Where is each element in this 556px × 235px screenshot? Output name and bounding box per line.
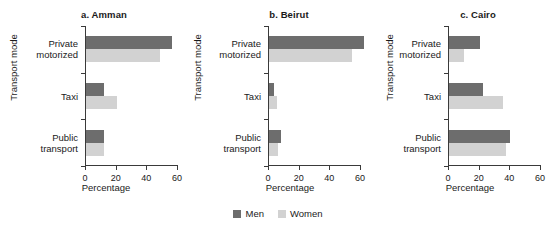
x-axis-tick — [268, 166, 269, 170]
bar-private-motorized-women — [269, 49, 352, 62]
y-axis-tick — [444, 26, 448, 27]
plot-area-beirut: 0204060PrivatemotorizedTaxiPublictranspo… — [268, 26, 360, 166]
x-axis-line — [85, 165, 178, 166]
x-axis-tick — [116, 166, 117, 170]
y-axis-tick — [264, 119, 268, 120]
y-axis-label-beirut: Transport mode — [192, 13, 203, 123]
x-axis-tick — [85, 166, 86, 170]
bar-taxi-women — [86, 96, 117, 109]
y-axis-category-label: Taxi — [61, 91, 78, 102]
bar-taxi-men — [269, 83, 274, 96]
x-axis-line — [448, 165, 541, 166]
y-axis-tick — [444, 119, 448, 120]
legend-label: Women — [290, 208, 323, 219]
bar-public-transport-women — [86, 143, 104, 156]
bar-public-transport-women — [449, 143, 506, 156]
legend-item-men: Men — [233, 208, 263, 219]
x-axis-tick — [479, 166, 480, 170]
y-axis-category-label: Taxi — [424, 91, 441, 102]
bar-taxi-women — [269, 96, 277, 109]
y-axis-category-label: Publictransport — [224, 132, 262, 154]
y-axis-category-label: Publictransport — [41, 132, 79, 154]
x-axis-tick — [540, 166, 541, 170]
x-axis-tick — [448, 166, 449, 170]
bar-public-transport-men — [86, 130, 104, 143]
transport-mode-by-gender-figure: a. Amman Transport mode 0204060Privatemo… — [0, 0, 556, 235]
x-axis-label-beirut: Percentage — [186, 182, 372, 193]
legend: MenWomen — [0, 208, 556, 219]
bar-private-motorized-men — [269, 36, 364, 49]
legend-swatch-icon — [233, 210, 241, 218]
bar-taxi-women — [449, 96, 503, 109]
x-axis-tick — [509, 166, 510, 170]
y-axis-tick — [444, 166, 448, 167]
y-axis-tick — [81, 26, 85, 27]
y-axis-category-label: Taxi — [244, 91, 261, 102]
chart-panel-beirut: b. Beirut Transport mode 0204060Privatem… — [186, 0, 372, 200]
legend-item-women: Women — [278, 208, 323, 219]
y-axis-label-amman: Transport mode — [8, 13, 19, 123]
x-axis-label-cairo: Percentage — [372, 182, 556, 193]
x-axis-line — [268, 165, 361, 166]
bar-public-transport-men — [449, 130, 510, 143]
legend-label: Men — [245, 208, 263, 219]
y-axis-tick — [81, 166, 85, 167]
x-axis-tick — [360, 166, 361, 170]
x-axis-tick — [146, 166, 147, 170]
panel-title-beirut: b. Beirut — [186, 9, 372, 20]
x-axis-label-amman: Percentage — [0, 182, 186, 193]
bar-taxi-men — [86, 83, 104, 96]
bar-private-motorized-women — [86, 49, 160, 62]
y-axis-tick — [264, 73, 268, 74]
y-axis-tick — [264, 166, 268, 167]
plot-area-amman: 0204060PrivatemotorizedTaxiPublictranspo… — [85, 26, 177, 166]
panel-title-amman: a. Amman — [0, 9, 186, 20]
y-axis-category-label: Publictransport — [404, 132, 442, 154]
x-axis-tick — [299, 166, 300, 170]
x-axis-tick — [177, 166, 178, 170]
chart-panel-amman: a. Amman Transport mode 0204060Privatemo… — [0, 0, 186, 200]
bar-private-motorized-men — [449, 36, 480, 49]
panel-title-cairo: c. Cairo — [372, 9, 556, 20]
y-axis-category-label: Privatemotorized — [36, 38, 78, 60]
x-axis-tick — [329, 166, 330, 170]
y-axis-category-label: Privatemotorized — [219, 38, 261, 60]
y-axis-tick — [264, 26, 268, 27]
y-axis-tick — [81, 73, 85, 74]
plot-area-cairo: 0204060PrivatemotorizedTaxiPublictranspo… — [448, 26, 540, 166]
bar-public-transport-men — [269, 130, 281, 143]
y-axis-category-label: Privatemotorized — [399, 38, 441, 60]
bar-private-motorized-men — [86, 36, 172, 49]
y-axis-tick — [81, 119, 85, 120]
bar-private-motorized-women — [449, 49, 464, 62]
chart-panel-cairo: c. Cairo Transport mode 0204060Privatemo… — [372, 0, 556, 200]
legend-swatch-icon — [278, 210, 286, 218]
y-axis-tick — [444, 73, 448, 74]
bar-taxi-men — [449, 83, 483, 96]
bar-public-transport-women — [269, 143, 278, 156]
y-axis-label-cairo: Transport mode — [384, 13, 395, 123]
